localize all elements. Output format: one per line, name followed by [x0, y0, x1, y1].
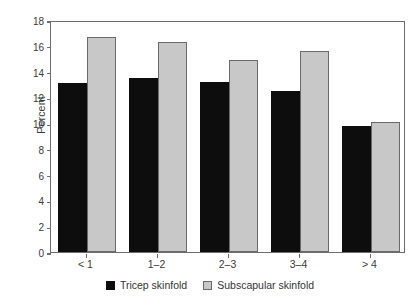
- y-tick-label: 10: [4, 118, 44, 132]
- y-tick-mark: [47, 228, 51, 229]
- bar: [300, 51, 329, 252]
- legend-item[interactable]: Tricep skinfold: [106, 279, 187, 291]
- y-tick-label: 12: [4, 92, 44, 106]
- y-tick-mark: [47, 99, 51, 100]
- bar-chart-figure: Percent 024681012141618 < 11–22–33–4> 4 …: [0, 0, 420, 303]
- bar: [58, 83, 87, 252]
- y-tick-mark: [47, 21, 51, 22]
- y-tick-label: 18: [4, 15, 44, 29]
- y-tick-mark: [47, 47, 51, 48]
- bar: [371, 122, 400, 252]
- y-tick-mark: [47, 202, 51, 203]
- legend-swatch-icon: [203, 281, 212, 290]
- plot-area: 024681012141618: [50, 21, 405, 253]
- y-tick-label: 4: [4, 195, 44, 209]
- bar: [271, 91, 300, 252]
- y-tick-mark: [47, 125, 51, 126]
- bar: [200, 82, 229, 252]
- legend-label: Subscapular skinfold: [217, 279, 314, 291]
- y-tick-mark: [47, 253, 51, 254]
- y-tick-mark: [47, 73, 51, 74]
- bar: [342, 126, 371, 252]
- x-tick-label: 1–2: [122, 258, 192, 270]
- y-tick-label: 6: [4, 170, 44, 184]
- chart-legend: Tricep skinfoldSubscapular skinfold: [0, 279, 420, 291]
- y-tick-mark: [47, 150, 51, 151]
- x-tick-label: < 1: [51, 258, 121, 270]
- x-tick-label: 2–3: [193, 258, 263, 270]
- y-tick-label: 16: [4, 41, 44, 55]
- bar: [229, 60, 258, 252]
- y-tick-mark: [47, 176, 51, 177]
- x-tick-label: > 4: [335, 258, 405, 270]
- bar: [87, 37, 116, 252]
- legend-swatch-icon: [106, 281, 115, 290]
- bar: [129, 78, 158, 252]
- y-tick-label: 2: [4, 221, 44, 235]
- y-tick-label: 14: [4, 67, 44, 81]
- legend-item[interactable]: Subscapular skinfold: [203, 279, 314, 291]
- legend-label: Tricep skinfold: [120, 279, 187, 291]
- x-tick-label: 3–4: [264, 258, 334, 270]
- y-tick-label: 8: [4, 144, 44, 158]
- bar: [158, 42, 187, 252]
- y-tick-label: 0: [4, 247, 44, 261]
